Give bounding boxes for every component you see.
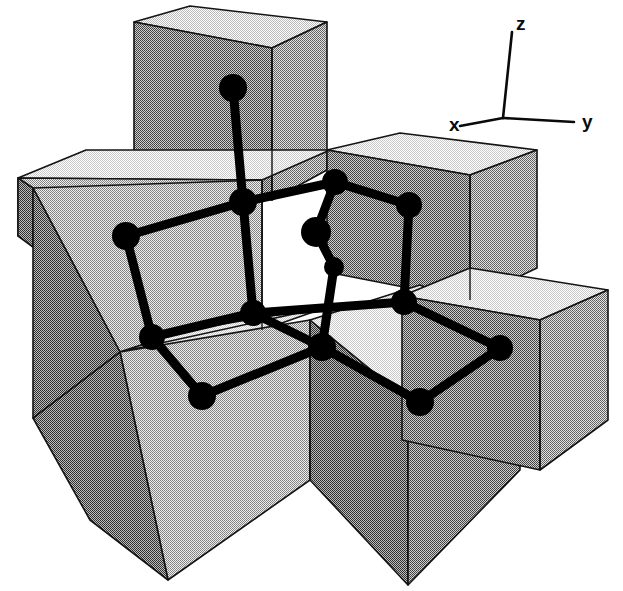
x-axis-label: x	[449, 114, 460, 135]
lattice-atom	[219, 74, 247, 102]
face-right	[540, 290, 608, 470]
z-axis-line	[503, 32, 512, 118]
lattice-atom	[229, 188, 257, 216]
lattice-atom	[396, 192, 422, 218]
face-front	[402, 296, 540, 470]
lattice-atom	[308, 333, 336, 361]
solid-blocks	[18, 6, 608, 585]
lattice-atom	[188, 382, 216, 410]
block-right-low-slab	[402, 268, 608, 470]
lattice-atom	[322, 169, 348, 195]
lattice-atom	[406, 388, 434, 416]
lattice-atom	[324, 257, 344, 277]
lattice-diagram-svg: x y z	[0, 0, 623, 591]
lattice-atom	[391, 289, 417, 315]
x-axis-line	[460, 118, 503, 126]
lattice-atom	[139, 324, 165, 350]
y-axis-line	[503, 118, 574, 122]
lattice-atom	[112, 222, 140, 250]
figure-canvas: x y z	[0, 0, 623, 591]
z-axis-label: z	[516, 13, 526, 34]
lattice-atom	[487, 335, 513, 361]
coordinate-axes-triad: x y z	[449, 13, 593, 135]
face-side	[18, 178, 33, 247]
lattice-atom	[240, 300, 266, 326]
face-right	[272, 22, 327, 200]
y-axis-label: y	[582, 111, 593, 132]
lattice-bond	[404, 205, 409, 302]
lattice-atom	[301, 217, 331, 247]
